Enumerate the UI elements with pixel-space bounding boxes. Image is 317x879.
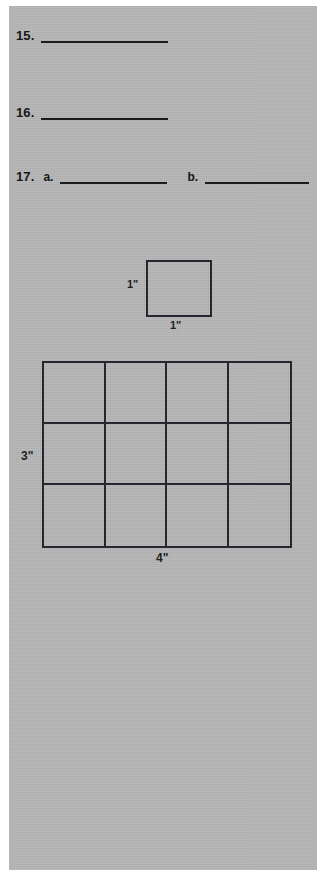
grid-cell	[167, 363, 229, 424]
answer-blank-16[interactable]	[41, 107, 168, 120]
grid-cell	[106, 424, 168, 485]
problem-row-15: 15.	[16, 29, 168, 43]
area-grid-figure: 3" 4"	[21, 354, 311, 582]
answer-blank-17a[interactable]	[60, 171, 167, 184]
grid-cell	[167, 485, 229, 546]
problem-number-16: 16.	[16, 106, 34, 120]
grid-cell	[106, 485, 168, 546]
area-grid-shape	[42, 361, 292, 548]
unit-square-figure: 1" 1"	[137, 251, 227, 339]
grid-cell	[167, 424, 229, 485]
problem-number-17: 17.	[16, 170, 34, 184]
grid-cell	[44, 424, 106, 485]
grid-cell	[229, 363, 291, 424]
worksheet-page: 15. 16. 17. a. b. 1" 1"	[9, 6, 317, 870]
grid-cell	[44, 485, 106, 546]
area-grid-height-label: 3"	[21, 450, 33, 463]
problem-number-15: 15.	[16, 29, 34, 43]
unit-square-width-label: 1"	[170, 319, 181, 331]
grid-cell	[44, 363, 106, 424]
answer-blank-15[interactable]	[41, 30, 168, 43]
grid-cell	[229, 424, 291, 485]
problem-row-16: 16.	[16, 106, 168, 120]
grid-cell	[229, 485, 291, 546]
part-label-b: b.	[187, 170, 198, 184]
grid-cell	[106, 363, 168, 424]
problem-row-17: 17. a. b.	[16, 170, 309, 184]
unit-square-height-label: 1"	[127, 278, 138, 290]
part-label-a: a.	[43, 170, 53, 184]
area-grid-width-label: 4"	[156, 552, 168, 565]
answer-blank-17b[interactable]	[205, 171, 309, 184]
unit-square-shape	[146, 260, 212, 317]
